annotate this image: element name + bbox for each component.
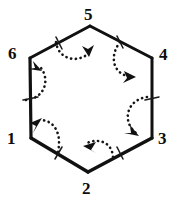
hexagon-diagram [0,0,179,204]
hexagon-edge-2-3 [88,138,152,172]
vertex-label-3: 3 [158,130,167,147]
arrowhead-2 [83,142,96,153]
arrowhead-5 [82,45,94,57]
hexagon-figure: 1 2 3 4 5 6 [0,0,179,204]
arrowhead-3 [124,125,139,136]
vertex-label-6: 6 [8,45,17,62]
vertex-label-5: 5 [84,6,93,23]
vertex-label-4: 4 [159,46,168,63]
hexagon-edge-5-6 [30,26,90,58]
vertex-label-1: 1 [7,130,16,147]
arrowhead-4 [123,71,136,83]
vertex-arcs [26,42,147,157]
edge-tick-marks [23,36,159,159]
vertex-label-2: 2 [82,180,91,197]
arc-arrowheads [28,45,139,153]
vertex-arc-5 [56,42,88,59]
